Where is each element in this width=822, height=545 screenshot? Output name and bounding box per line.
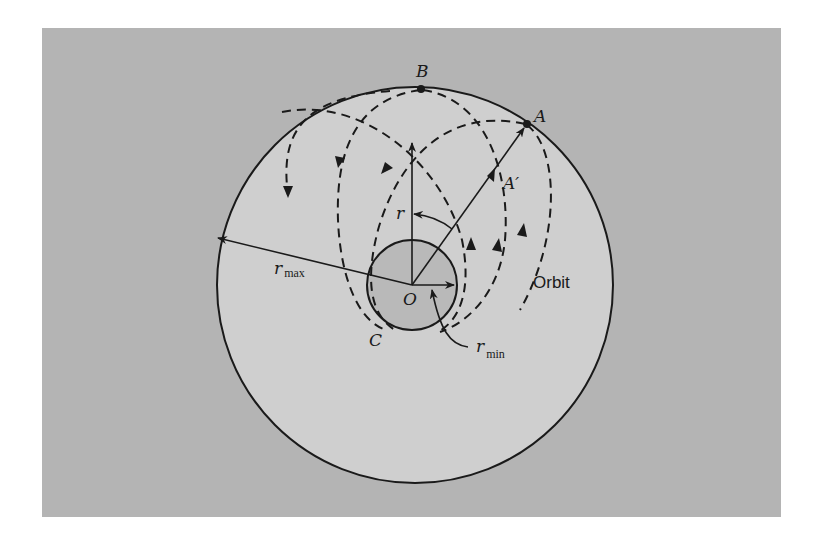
point-a-dot bbox=[523, 120, 531, 128]
label-b: B bbox=[415, 61, 429, 81]
label-rmax-main: r bbox=[274, 258, 283, 278]
point-b-dot bbox=[417, 85, 425, 93]
label-a-prime: A′ bbox=[501, 173, 519, 193]
label-r: r bbox=[396, 203, 405, 223]
label-c: C bbox=[369, 330, 382, 350]
label-o: O bbox=[403, 289, 417, 309]
label-orbit: Orbit bbox=[533, 273, 570, 292]
label-a: A bbox=[532, 106, 546, 126]
label-rmin-sub: min bbox=[486, 347, 505, 361]
orbit-diagram: B A A′ C O r rmax rmin Orbit bbox=[0, 0, 822, 545]
label-rmax-sub: max bbox=[284, 266, 305, 280]
label-rmin-main: r bbox=[476, 336, 485, 356]
